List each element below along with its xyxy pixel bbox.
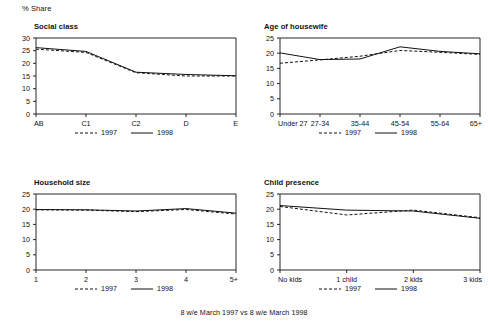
legend-item-1997: 1997	[75, 284, 117, 293]
svg-text:15: 15	[266, 220, 274, 229]
legend-item-1997: 1997	[75, 128, 117, 137]
svg-text:25: 25	[266, 190, 274, 199]
svg-text:35-44: 35-44	[351, 119, 369, 128]
chart-page: % Share Social class 051015202530ABC1C2D…	[0, 0, 488, 327]
panel-household-size: Household size 051015202512345+ 1997 199…	[4, 178, 244, 327]
svg-text:2 kids: 2 kids	[404, 275, 423, 284]
svg-text:25: 25	[22, 46, 30, 55]
svg-text:0: 0	[270, 110, 274, 119]
plot-household-size: 051015202512345+	[4, 178, 244, 298]
legend-item-1998: 1998	[131, 128, 173, 137]
solid-line-icon	[131, 286, 153, 292]
legend-item-1997: 1997	[319, 128, 361, 137]
svg-text:5: 5	[270, 250, 274, 259]
legend-age-of-housewife: 1997 1998	[248, 128, 488, 137]
svg-text:20: 20	[22, 205, 30, 214]
svg-text:AB: AB	[34, 119, 44, 128]
svg-text:5+: 5+	[230, 275, 238, 284]
dashed-line-icon	[75, 130, 97, 136]
svg-text:20: 20	[22, 59, 30, 68]
legend-label: 1998	[157, 128, 173, 137]
panel-child-presence: Child presence 0510152025No kids1 child2…	[248, 178, 488, 327]
legend-label: 1998	[157, 284, 173, 293]
svg-text:C2: C2	[131, 119, 140, 128]
svg-text:2: 2	[84, 275, 88, 284]
solid-line-icon	[375, 130, 397, 136]
svg-text:5: 5	[26, 250, 30, 259]
svg-text:55-64: 55-64	[431, 119, 449, 128]
legend-item-1998: 1998	[375, 128, 417, 137]
svg-text:27-34: 27-34	[311, 119, 329, 128]
svg-text:10: 10	[266, 235, 274, 244]
plot-age-of-housewife: 0510152025Under 2727-3435-4445-5455-6465…	[248, 22, 488, 142]
svg-text:5: 5	[270, 94, 274, 103]
dashed-line-icon	[75, 286, 97, 292]
legend-child-presence: 1997 1998	[248, 284, 488, 293]
unit-label: % Share	[22, 4, 51, 13]
svg-text:20: 20	[266, 205, 274, 214]
legend-item-1998: 1998	[375, 284, 417, 293]
svg-text:3 kids: 3 kids	[463, 275, 482, 284]
svg-text:0: 0	[26, 110, 30, 119]
legend-item-1997: 1997	[319, 284, 361, 293]
plot-social-class: 051015202530ABC1C2DE	[4, 22, 244, 142]
svg-text:10: 10	[266, 79, 274, 88]
plot-child-presence: 0510152025No kids1 child2 kids3 kids	[248, 178, 488, 298]
svg-text:20: 20	[266, 49, 274, 58]
legend-item-1998: 1998	[131, 284, 173, 293]
svg-text:15: 15	[22, 72, 30, 81]
svg-text:E: E	[233, 119, 238, 128]
panel-age-of-housewife: Age of housewife 0510152025Under 2727-34…	[248, 22, 488, 174]
svg-text:15: 15	[22, 220, 30, 229]
svg-text:3: 3	[134, 275, 138, 284]
dashed-line-icon	[319, 130, 341, 136]
legend-label: 1998	[401, 128, 417, 137]
legend-label: 1997	[345, 128, 361, 137]
solid-line-icon	[131, 130, 153, 136]
panel-social-class: Social class 051015202530ABC1C2DE 1997 1…	[4, 22, 244, 174]
svg-text:0: 0	[270, 266, 274, 275]
svg-text:30: 30	[22, 34, 30, 43]
svg-text:65+: 65+	[470, 119, 482, 128]
footer-note: 8 w/e March 1997 vs 8 w/e March 1998	[0, 308, 488, 317]
svg-text:D: D	[183, 119, 188, 128]
svg-text:25: 25	[22, 190, 30, 199]
legend-household-size: 1997 1998	[4, 284, 244, 293]
svg-text:Under 27: Under 27	[278, 119, 308, 128]
svg-text:1 child: 1 child	[336, 275, 357, 284]
dashed-line-icon	[319, 286, 341, 292]
svg-text:10: 10	[22, 84, 30, 93]
svg-text:No kids: No kids	[278, 275, 302, 284]
legend-label: 1997	[101, 128, 117, 137]
svg-text:4: 4	[184, 275, 188, 284]
svg-text:15: 15	[266, 64, 274, 73]
svg-text:10: 10	[22, 235, 30, 244]
legend-label: 1997	[101, 284, 117, 293]
legend-label: 1997	[345, 284, 361, 293]
legend-social-class: 1997 1998	[4, 128, 244, 137]
solid-line-icon	[375, 286, 397, 292]
svg-text:45-54: 45-54	[391, 119, 409, 128]
svg-text:C1: C1	[81, 119, 90, 128]
svg-text:5: 5	[26, 97, 30, 106]
svg-text:1: 1	[34, 275, 38, 284]
legend-label: 1998	[401, 284, 417, 293]
svg-text:25: 25	[266, 34, 274, 43]
svg-text:0: 0	[26, 266, 30, 275]
